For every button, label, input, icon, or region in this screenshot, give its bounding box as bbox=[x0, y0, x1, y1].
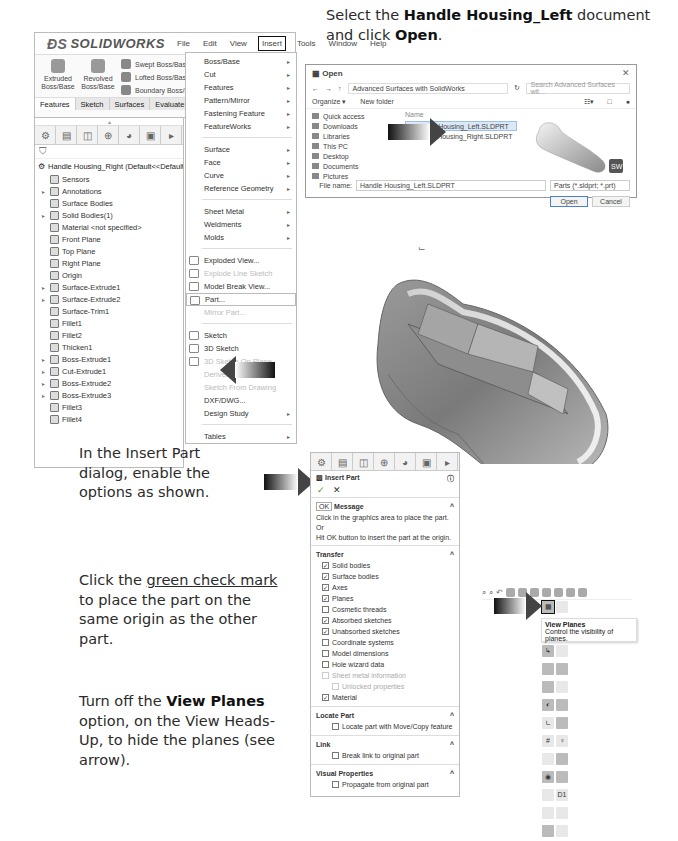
menu-view[interactable]: View bbox=[228, 37, 249, 50]
tree-item[interactable]: ▸Boss-Extrude1 bbox=[39, 353, 183, 365]
view-all-annotations-icon[interactable] bbox=[556, 717, 568, 729]
tree-item[interactable]: Material <not specified> bbox=[39, 221, 183, 233]
menu-file[interactable]: File bbox=[175, 37, 192, 50]
expand-icon[interactable]: ▸ bbox=[39, 188, 47, 195]
menu-item-featureworks[interactable]: FeatureWorks▸ bbox=[186, 120, 296, 133]
checkbox-surface-bodies[interactable]: ✓Surface bodies bbox=[316, 571, 454, 582]
cancel-x-button[interactable]: ✕ bbox=[333, 485, 341, 497]
back-icon[interactable]: ← bbox=[312, 85, 319, 92]
collapse-icon[interactable]: ^ bbox=[450, 770, 454, 777]
collapse-icon[interactable]: ^ bbox=[450, 741, 454, 748]
menu-item-weldments[interactable]: Weldments▸ bbox=[186, 218, 296, 231]
cancel-button[interactable]: Cancel bbox=[592, 196, 630, 207]
tree-item[interactable]: ▸Solid Bodies(1) bbox=[39, 209, 183, 221]
checkbox-axes[interactable]: ✓Axes bbox=[316, 582, 454, 593]
configuration-manager-icon[interactable]: ◫ bbox=[77, 126, 98, 145]
zoom-to-fit-icon[interactable]: ⌕ bbox=[482, 588, 486, 598]
path-field[interactable]: Advanced Surfaces with SolidWorks bbox=[348, 83, 508, 94]
feature-manager-icon[interactable]: ⚙ bbox=[35, 126, 56, 145]
tree-item[interactable]: Fillet1 bbox=[39, 317, 183, 329]
view-sketches-icon[interactable] bbox=[542, 681, 554, 693]
expand-icon[interactable]: ▸ bbox=[39, 368, 47, 375]
checkbox-coordinate-systems[interactable]: Coordinate systems bbox=[316, 637, 454, 648]
expand-icon[interactable]: ▸ bbox=[39, 296, 47, 303]
expand-icon[interactable]: ▸ bbox=[39, 392, 47, 399]
view-lights-icon[interactable]: ♀ bbox=[556, 735, 568, 747]
tab-surfaces[interactable]: Surfaces bbox=[110, 98, 151, 110]
menu-item-exploded-view[interactable]: Exploded View... bbox=[186, 254, 296, 267]
checkbox-unabsorbed-sketches[interactable]: ✓Unabsorbed sketches bbox=[316, 626, 454, 637]
view-sensors-icon[interactable] bbox=[556, 771, 568, 783]
tree-item[interactable]: ▸Surface-Extrude1 bbox=[39, 281, 183, 293]
more-tabs-icon[interactable]: ▸ bbox=[161, 126, 182, 145]
menu-item-sketch[interactable]: Sketch bbox=[186, 329, 296, 342]
display-manager-icon[interactable]: ◕ bbox=[119, 126, 140, 145]
checkbox-solid-bodies[interactable]: ✓Solid bodies bbox=[316, 560, 454, 571]
menu-item-pattern-mirror[interactable]: Pattern/Mirror▸ bbox=[186, 94, 296, 107]
nav-quick-access[interactable]: Quick access bbox=[312, 111, 395, 121]
revolved-boss-button[interactable]: Revolved Boss/Base bbox=[81, 59, 115, 93]
tree-item[interactable]: Origin bbox=[39, 269, 183, 281]
collapse-icon[interactable]: ^ bbox=[450, 551, 454, 558]
menu-tools[interactable]: Tools bbox=[295, 37, 318, 50]
nav-downloads[interactable]: Downloads bbox=[312, 121, 395, 131]
tree-item[interactable]: Right Plane bbox=[39, 257, 183, 269]
tree-item[interactable]: ▸Boss-Extrude2 bbox=[39, 377, 183, 389]
help-icon[interactable]: ● bbox=[626, 98, 630, 105]
filter-icon[interactable]: ⛉ bbox=[35, 145, 183, 159]
zoom-area-icon[interactable]: ⌕ bbox=[489, 588, 493, 598]
view-dimension-names-icon[interactable]: D1 bbox=[556, 789, 568, 801]
tree-item[interactable]: ▸Cut-Extrude1 bbox=[39, 365, 183, 377]
menu-item-cut[interactable]: Cut▸ bbox=[186, 68, 296, 81]
tree-item[interactable]: Fillet3 bbox=[39, 401, 183, 413]
dimxpert-icon[interactable]: ⊕ bbox=[98, 126, 119, 145]
menu-item-3d-sketch[interactable]: 3D Sketch bbox=[186, 342, 296, 355]
view-3d-sketch-planes-icon[interactable] bbox=[556, 681, 568, 693]
file-name-input[interactable]: Handle Housing_Left.SLDPRT bbox=[356, 180, 546, 191]
tree-item[interactable]: ▸Surface-Extrude2 bbox=[39, 293, 183, 305]
tree-item[interactable]: Fillet2 bbox=[39, 329, 183, 341]
menu-item-reference-geometry[interactable]: Reference Geometry▸ bbox=[186, 182, 296, 195]
edit-appearance-icon[interactable] bbox=[554, 588, 563, 597]
property-manager-icon[interactable]: ▤ bbox=[332, 453, 353, 471]
organize-button[interactable]: Organize ▾ bbox=[312, 98, 346, 106]
help-icon[interactable]: ⓘ bbox=[447, 473, 454, 483]
menu-item-boss-base[interactable]: Boss/Base▸ bbox=[186, 55, 296, 68]
preview-pane-icon[interactable]: □ bbox=[608, 98, 612, 105]
tree-item[interactable]: Fillet4 bbox=[39, 413, 183, 425]
collapse-icon[interactable]: ^ bbox=[450, 503, 454, 510]
extruded-boss-button[interactable]: Extruded Boss/Base bbox=[41, 59, 75, 93]
configuration-manager-icon[interactable]: ◫ bbox=[353, 453, 374, 471]
view-grid-icon[interactable]: # bbox=[542, 735, 554, 747]
expand-icon[interactable]: ▸ bbox=[39, 380, 47, 387]
checkbox-cosmetic-threads[interactable]: Cosmetic threads bbox=[316, 604, 454, 615]
menu-item-sheet-metal[interactable]: Sheet Metal▸ bbox=[186, 205, 296, 218]
close-icon[interactable]: ✕ bbox=[622, 68, 630, 78]
menu-edit[interactable]: Edit bbox=[201, 37, 219, 50]
view-points-icon[interactable] bbox=[542, 663, 554, 675]
tree-item[interactable]: Thicken1 bbox=[39, 341, 183, 353]
tree-item[interactable]: ▸Boss-Extrude3 bbox=[39, 389, 183, 401]
more-tabs-icon[interactable]: ▸ bbox=[437, 453, 458, 471]
view-settings-icon[interactable] bbox=[578, 588, 587, 597]
view-lights-2-icon[interactable] bbox=[556, 825, 568, 837]
refresh-icon[interactable]: ↻ bbox=[514, 84, 520, 92]
hide-show-items-icon[interactable] bbox=[542, 588, 551, 597]
menu-window[interactable]: Window bbox=[327, 37, 359, 50]
view-all-types-icon[interactable] bbox=[542, 825, 554, 837]
collapse-handle[interactable]: ▴ bbox=[35, 118, 183, 126]
view-routing-points-icon[interactable]: ◐ bbox=[542, 699, 554, 711]
tree-item[interactable]: Surface-Trim1 bbox=[39, 305, 183, 317]
dimxpert-icon[interactable]: ⊕ bbox=[374, 453, 395, 471]
menu-item-tables[interactable]: Tables▸ bbox=[186, 430, 296, 443]
menu-item-features[interactable]: Features▸ bbox=[186, 81, 296, 94]
expand-icon[interactable]: ▸ bbox=[39, 284, 47, 291]
ok-check-button[interactable]: ✓ bbox=[317, 485, 325, 497]
up-icon[interactable]: ↑ bbox=[338, 85, 342, 92]
cam-icon[interactable]: ▣ bbox=[140, 126, 161, 145]
propagate-checkbox[interactable]: Propagate from original part bbox=[316, 779, 454, 790]
menu-item-fastening-feature[interactable]: Fastening Feature▸ bbox=[186, 107, 296, 120]
view-cameras-icon[interactable] bbox=[542, 753, 554, 765]
view-sketch-relations-icon[interactable]: ㄴ bbox=[542, 717, 554, 729]
menu-item-surface[interactable]: Surface▸ bbox=[186, 143, 296, 156]
